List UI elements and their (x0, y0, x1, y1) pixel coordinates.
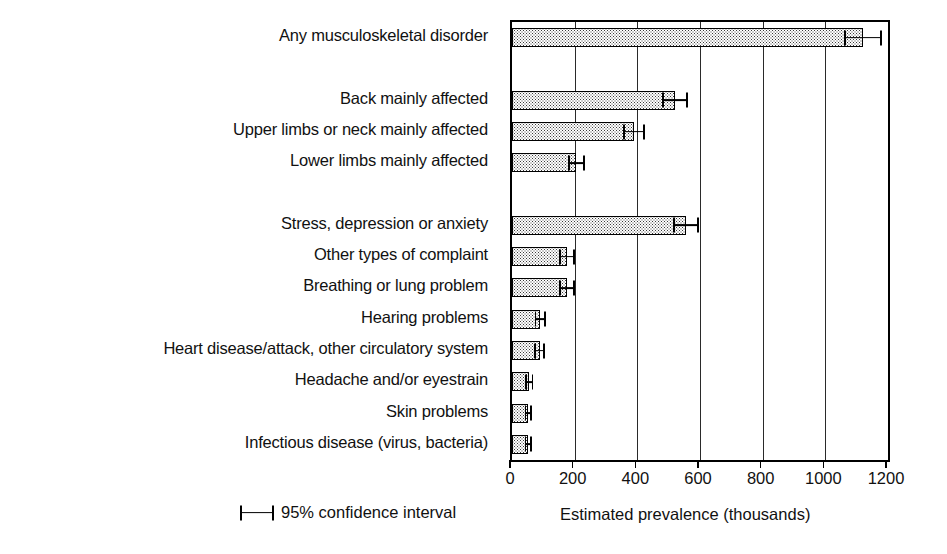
category-label: Other types of complaint (314, 246, 488, 263)
x-tick (885, 460, 887, 468)
category-label: Skin problems (386, 403, 488, 420)
bar (512, 28, 863, 47)
x-tick-label: 200 (559, 470, 587, 487)
gridline (825, 22, 826, 460)
x-axis-title: Estimated prevalence (thousands) (560, 505, 810, 524)
category-label: Infectious disease (virus, bacteria) (245, 434, 488, 451)
bar (512, 216, 686, 235)
bar-row (512, 341, 888, 360)
x-tick-label: 1000 (805, 470, 842, 487)
category-label: Breathing or lung problem (303, 277, 488, 294)
bar-row (512, 122, 888, 141)
legend-label-ci: 95% confidence interval (281, 503, 456, 522)
x-tick-label: 400 (622, 470, 650, 487)
category-label: Upper limbs or neck mainly affected (233, 121, 488, 138)
bar-row (512, 310, 888, 329)
category-label: Back mainly affected (340, 90, 488, 107)
category-label: Lower limbs mainly affected (290, 152, 488, 169)
gridline (700, 22, 701, 460)
bar-row (512, 372, 888, 391)
x-tick (823, 460, 825, 468)
bar (512, 122, 634, 141)
legend: 95% confidence interval (240, 503, 456, 522)
plot-area (510, 20, 890, 462)
x-tick-label: 1200 (868, 470, 905, 487)
category-label: Heart disease/attack, other circulatory … (163, 340, 488, 357)
x-tick-label: 600 (684, 470, 712, 487)
plot-inner (512, 22, 888, 460)
category-label-column: Any musculoskeletal disorderBack mainly … (0, 20, 498, 458)
bar-row (512, 91, 888, 110)
bar-row (512, 216, 888, 235)
x-tick (697, 460, 699, 468)
category-label: Stress, depression or anxiety (281, 215, 488, 232)
x-tick-label: 800 (747, 470, 775, 487)
bar-row (512, 404, 888, 423)
prevalence-bar-chart: Any musculoskeletal disorderBack mainly … (0, 0, 947, 554)
x-axis: 020040060080010001200 (510, 460, 886, 500)
bar-row (512, 28, 888, 47)
x-tick (572, 460, 574, 468)
category-label: Any musculoskeletal disorder (279, 27, 488, 44)
x-tick-label: 0 (505, 470, 514, 487)
category-label: Headache and/or eyestrain (295, 371, 488, 388)
bar (512, 91, 675, 110)
gridline (763, 22, 764, 460)
category-label: Hearing problems (361, 309, 488, 326)
x-tick (635, 460, 637, 468)
bar (512, 153, 576, 172)
gridline (575, 22, 576, 460)
gridline (637, 22, 638, 460)
x-tick (760, 460, 762, 468)
x-tick (509, 460, 511, 468)
confidence-interval-icon (240, 505, 274, 521)
bar-row (512, 435, 888, 454)
